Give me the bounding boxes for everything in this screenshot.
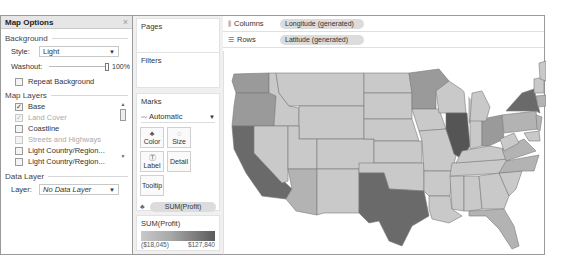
state-kansas (374, 141, 422, 163)
longitude-pill[interactable]: Longitude (generated) (280, 19, 364, 29)
tooltip-button[interactable]: Tooltip (140, 175, 164, 196)
us-states-map[interactable] (224, 51, 546, 255)
state-arkansas (424, 171, 452, 196)
layer-item-base[interactable]: ✓Base (1, 101, 132, 112)
scroll-up-icon[interactable]: ▲ (120, 101, 126, 107)
layer-item-light-country-region-2[interactable]: Light Country/Region... (1, 156, 132, 167)
data-layer-dropdown[interactable]: No Data Layer ▼ (39, 184, 119, 195)
automatic-mark-icon: 〰 (141, 114, 147, 120)
state-new-jersey (536, 115, 542, 131)
checkbox-disabled[interactable] (15, 136, 23, 144)
state-massachusetts-ct (536, 95, 546, 107)
label-icon: Ⓣ (149, 154, 156, 162)
close-icon[interactable]: × (123, 17, 128, 27)
layer-label: Land Cover (28, 113, 67, 122)
layer-label: Streets and Highways (28, 135, 101, 144)
sum-profit-pill[interactable]: SUM(Profit) (150, 202, 216, 212)
layer-label: Coastline (28, 124, 59, 133)
washout-slider[interactable] (45, 62, 109, 72)
state-florida (469, 209, 519, 249)
map-layers-list: ✓Base ✓Land Cover Coastline Streets and … (1, 101, 132, 169)
columns-shelf[interactable]: ⫼Columns Longitude (generated) (223, 16, 544, 32)
label-button[interactable]: ⓉLabel (140, 151, 164, 172)
marks-title: Marks (137, 94, 219, 109)
mark-type-dropdown[interactable]: 〰 Automatic ▼ (141, 111, 215, 123)
repeat-background-checkbox[interactable] (15, 78, 23, 86)
data-layer-value: No Data Layer (43, 185, 91, 194)
label-label: Label (143, 162, 160, 169)
state-wyoming (299, 106, 364, 139)
chevron-down-icon: ▼ (109, 187, 115, 193)
scrollbar-thumb[interactable] (120, 109, 126, 121)
color-icon: ♣ (150, 130, 155, 138)
state-arizona (286, 169, 317, 215)
chevron-down-icon: ▼ (109, 49, 115, 55)
slider-thumb[interactable] (105, 63, 109, 71)
size-label: Size (172, 138, 186, 145)
layers-scrollbar[interactable]: ▲ ▼ (120, 101, 126, 167)
repeat-background-row[interactable]: Repeat Background (1, 74, 132, 89)
state-pennsylvania (502, 111, 538, 133)
layer-label: Layer: (11, 185, 39, 194)
checkbox-checked[interactable]: ✓ (15, 103, 23, 111)
map-layers-section: Map Layers (1, 89, 132, 101)
size-icon: ◌ (177, 130, 181, 138)
layer-item-coastline[interactable]: Coastline (1, 123, 132, 134)
size-button[interactable]: ◌Size (167, 127, 191, 148)
state-maryland-delaware (524, 131, 540, 141)
layer-label: Light Country/Region... (28, 146, 105, 155)
marks-card: Marks 〰 Automatic ▼ ♣Color ◌Size ⓉLabel … (136, 93, 220, 211)
state-north-dakota (364, 73, 412, 93)
color-legend-gradient[interactable] (141, 231, 215, 241)
checkbox-checked-disabled[interactable]: ✓ (15, 114, 23, 122)
checkbox[interactable] (15, 125, 23, 133)
pages-title: Pages (137, 19, 219, 34)
rows-shelf[interactable]: ☰Rows Latitude (generated) (223, 32, 544, 48)
layer-item-streets-highways[interactable]: Streets and Highways (1, 134, 132, 145)
state-new-mexico (317, 169, 359, 215)
map-layers-section-label: Map Layers (5, 91, 47, 100)
state-nebraska (364, 119, 419, 141)
background-section-label: Background (5, 34, 48, 43)
style-label: Style: (11, 47, 39, 56)
state-montana (276, 73, 364, 106)
washout-value: 100% (112, 63, 132, 70)
layer-item-land-cover[interactable]: ✓Land Cover (1, 112, 132, 123)
marks-buttons: ♣Color ◌Size ⓉLabel Detail Tooltip (137, 125, 219, 198)
style-row: Style: Light ▼ (1, 44, 132, 59)
legend-max: $127,840 (188, 241, 215, 248)
data-layer-section: Data Layer (1, 170, 132, 182)
rows-shelf-label: ☰Rows (228, 35, 280, 44)
map-options-panel: Map Options × Background Style: Light ▼ … (0, 15, 133, 255)
pages-card[interactable]: Pages (136, 18, 220, 56)
map-view[interactable] (223, 51, 545, 255)
checkbox[interactable] (15, 158, 23, 166)
color-button[interactable]: ♣Color (140, 127, 164, 148)
washout-label: Washout: (11, 62, 45, 71)
state-oregon (232, 93, 276, 126)
data-layer-row: Layer: No Data Layer ▼ (1, 182, 132, 197)
scroll-down-icon[interactable]: ▼ (120, 153, 126, 159)
divider (48, 176, 128, 177)
rows-label: Rows (237, 35, 256, 44)
columns-shelf-label: ⫼Columns (228, 19, 280, 28)
color-label: Color (144, 138, 161, 145)
chevron-down-icon: ▼ (209, 114, 215, 120)
layer-item-light-country-region-1[interactable]: Light Country/Region... (1, 145, 132, 156)
washout-row: Washout: 100% (1, 59, 132, 74)
latitude-pill[interactable]: Latitude (generated) (280, 35, 364, 45)
style-dropdown[interactable]: Light ▼ (39, 46, 119, 57)
legend-min: ($18,045) (141, 241, 169, 248)
shelves: ⫼Columns Longitude (generated) ☰Rows Lat… (223, 15, 545, 51)
detail-button[interactable]: Detail (167, 151, 191, 172)
background-section: Background (1, 32, 132, 44)
state-washington (232, 73, 269, 93)
map-options-title: Map Options (5, 18, 53, 27)
legend-values: ($18,045) $127,840 (137, 241, 219, 248)
tooltip-label: Tooltip (142, 182, 162, 189)
legend-title: SUM(Profit) (137, 216, 219, 228)
marks-pill-row: ♣ SUM(Profit) (137, 200, 219, 213)
divider (52, 38, 128, 39)
checkbox[interactable] (15, 147, 23, 155)
filters-card[interactable]: Filters (136, 52, 220, 88)
